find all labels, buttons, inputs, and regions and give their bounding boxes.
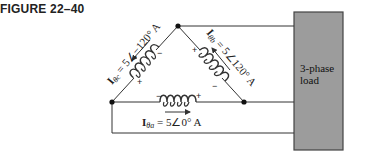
coil-ba-icon [160,95,196,106]
coil-ac-minus: − [157,48,162,58]
coil-ba-minus: − [156,91,161,101]
svg-text:Iθc = 5∠−120° A: Iθc = 5∠−120° A [104,20,164,87]
coil-ac-plus: + [137,77,142,87]
coil-ab-minus: − [212,81,217,91]
junction-dot-top [175,23,180,28]
coil-ba-plus: + [196,91,201,101]
circuit-diagram: 3-phase load − + + − − + [0,0,367,157]
coil-ab-plus: + [192,45,197,55]
load-label-line1: 3-phase [300,62,334,74]
current-label-ba: Iθa = 5∠0° A [142,116,201,130]
current-label-ac: Iθc = 5∠−120° A [104,20,164,87]
junction-dot-left [109,99,114,104]
svg-text:Iθa = 5∠0° A: Iθa = 5∠0° A [142,116,201,130]
junction-dot-right [241,99,246,104]
line-c-wire [112,102,294,133]
load-label-line2: load [300,74,319,86]
